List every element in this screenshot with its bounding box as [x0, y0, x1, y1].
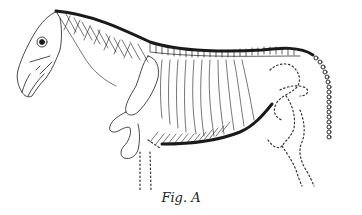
dotted-outlines [140, 64, 314, 192]
hind-leg-outline [282, 96, 302, 186]
foreleg-lower-outline [140, 152, 151, 192]
skull [17, 12, 61, 97]
horse-skeleton-illustration [0, 0, 362, 215]
neck-vertebrae [60, 14, 148, 86]
pelvis-outline [270, 64, 299, 120]
tail-vertebrae [314, 56, 331, 139]
back-topline [56, 11, 313, 55]
scapula-and-foreleg [110, 56, 159, 159]
figure-caption: Fig. A [0, 190, 362, 205]
